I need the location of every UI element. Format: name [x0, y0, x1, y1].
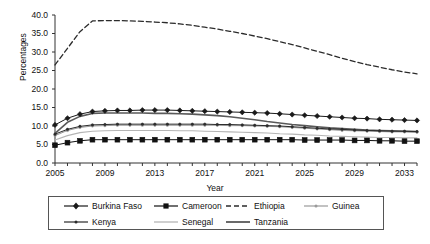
data-point-marker [103, 137, 108, 142]
data-point-marker [266, 124, 269, 127]
legend-item-label: Guinea [332, 201, 359, 211]
data-point-marker [204, 123, 207, 126]
data-point-marker [79, 125, 82, 128]
data-point-marker [140, 107, 145, 112]
data-point-marker [277, 137, 282, 142]
legend-swatch [153, 201, 179, 211]
data-point-marker [177, 108, 182, 113]
data-point-marker [165, 137, 170, 142]
legend-swatch [225, 217, 251, 227]
x-tick-label: 2029 [337, 168, 373, 178]
data-point-marker [391, 130, 394, 133]
data-point-marker [241, 124, 244, 127]
data-point-marker [290, 112, 295, 117]
data-point-marker [402, 139, 407, 144]
legend-item-cameroon[interactable]: Cameroon [153, 201, 222, 211]
data-point-marker [327, 138, 332, 143]
data-point-marker [129, 123, 132, 126]
data-point-marker [154, 123, 157, 126]
data-point-marker [315, 138, 320, 143]
data-point-marker [202, 137, 207, 142]
data-point-marker [229, 123, 232, 126]
legend-swatch [225, 201, 251, 211]
x-tick-label: 2017 [187, 168, 223, 178]
data-point-marker [414, 118, 419, 123]
data-point-marker [141, 123, 144, 126]
data-point-marker [66, 128, 69, 131]
data-point-marker [166, 123, 169, 126]
data-point-marker [227, 109, 232, 114]
data-point-marker [177, 137, 182, 142]
legend-item-senegal[interactable]: Senegal [153, 217, 213, 227]
x-axis-title: Year [0, 183, 430, 193]
data-point-marker [366, 129, 369, 132]
data-point-marker [165, 107, 170, 112]
data-point-marker [252, 110, 257, 115]
data-point-marker [315, 113, 320, 118]
data-point-marker [277, 111, 282, 116]
data-point-marker [115, 137, 120, 142]
data-point-marker [227, 137, 232, 142]
data-point-marker [278, 125, 281, 128]
data-point-marker [402, 117, 407, 122]
line-chart: Percentages 0.05.010.015.020.025.030.035… [0, 0, 430, 244]
data-point-marker [340, 138, 345, 143]
data-point-marker [65, 116, 70, 121]
data-point-marker [364, 116, 369, 121]
legend-swatch [153, 217, 179, 227]
legend-item-tanzania[interactable]: Tanzania [225, 217, 288, 227]
legend-item-label: Cameroon [182, 201, 222, 211]
data-point-marker [215, 109, 220, 114]
data-point-marker [415, 139, 420, 144]
legend-row: KenyaSenegalTanzania [49, 214, 383, 230]
data-point-marker [353, 129, 356, 132]
data-point-marker [377, 117, 382, 122]
x-tick-label: 2009 [87, 168, 123, 178]
data-point-marker [328, 128, 331, 131]
series-line-cameroon [55, 140, 417, 146]
data-point-marker [54, 133, 57, 136]
data-point-marker [290, 137, 295, 142]
data-point-marker [291, 125, 294, 128]
legend-swatch [63, 201, 89, 211]
data-point-marker [378, 130, 381, 133]
legend-item-label: Senegal [182, 217, 213, 227]
data-point-marker [303, 126, 306, 129]
data-point-marker [316, 127, 319, 130]
legend-item-ethiopia[interactable]: Ethiopia [225, 201, 285, 211]
data-point-marker [152, 137, 157, 142]
data-point-marker [78, 138, 83, 143]
data-point-marker [352, 138, 357, 143]
data-point-marker [90, 137, 95, 142]
x-tick-label: 2033 [387, 168, 423, 178]
data-point-marker [65, 140, 70, 145]
data-point-marker [352, 116, 357, 121]
data-point-marker [191, 123, 194, 126]
data-point-marker [215, 137, 220, 142]
data-point-marker [416, 130, 419, 133]
data-point-marker [340, 115, 345, 120]
data-point-marker [91, 124, 94, 127]
series-line-ethiopia [55, 21, 417, 74]
data-point-marker [216, 123, 219, 126]
data-point-marker [179, 123, 182, 126]
data-point-marker [403, 130, 406, 133]
x-tick-label: 2005 [37, 168, 73, 178]
data-point-marker [365, 138, 370, 143]
legend-item-label: Kenya [92, 217, 116, 227]
data-point-marker [302, 113, 307, 118]
legend-row: Burkina FasoCameroonEthiopiaGuinea [49, 198, 383, 214]
data-point-marker [377, 138, 382, 143]
data-point-marker [240, 137, 245, 142]
legend-item-kenya[interactable]: Kenya [63, 217, 116, 227]
data-point-marker [190, 137, 195, 142]
legend-item-burkina-faso[interactable]: Burkina Faso [63, 201, 142, 211]
legend-item-label: Ethiopia [254, 201, 285, 211]
data-point-marker [252, 137, 257, 142]
data-point-marker [302, 138, 307, 143]
data-point-marker [52, 122, 57, 127]
x-tick-label: 2021 [237, 168, 273, 178]
data-point-marker [389, 117, 394, 122]
legend-swatch [303, 201, 329, 211]
legend-item-guinea[interactable]: Guinea [303, 201, 359, 211]
